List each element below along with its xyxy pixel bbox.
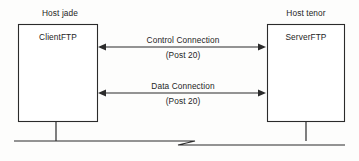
data-connection-title: Data Connection bbox=[93, 82, 273, 91]
ftp-connection-diagram: Host jade Host tenor ClientFTP ServerFTP… bbox=[0, 0, 359, 161]
network-bus-line bbox=[14, 141, 345, 145]
control-connection-title: Control Connection bbox=[93, 36, 273, 45]
bus-break-icon bbox=[178, 141, 195, 145]
data-connection-port: (Post 20) bbox=[93, 97, 273, 106]
control-connection-port: (Post 20) bbox=[93, 51, 273, 60]
host-caption-right: Host tenor bbox=[251, 9, 359, 18]
host-caption-left: Host jade bbox=[5, 9, 115, 18]
